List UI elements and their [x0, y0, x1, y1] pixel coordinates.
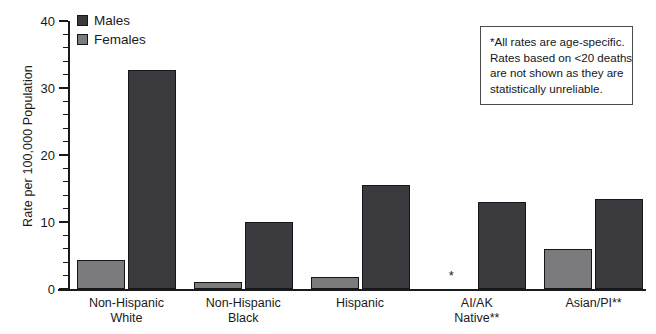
bar-females-2: [311, 277, 359, 289]
x-axis-label-3: AI/AKNative**: [454, 296, 499, 326]
x-axis-label-2: Hispanic: [336, 296, 384, 311]
legend-swatch-females-icon: [77, 34, 88, 45]
y-minor-tick: [63, 47, 68, 48]
y-tick-mark: [59, 87, 68, 89]
x-axis-label-line: Asian/PI**: [565, 296, 621, 311]
y-minor-tick: [63, 181, 68, 182]
y-minor-tick: [63, 34, 68, 35]
y-minor-tick: [63, 74, 68, 75]
y-minor-tick: [63, 275, 68, 276]
x-axis-label-line: Non-Hispanic: [206, 296, 281, 311]
x-axis-line: [58, 289, 646, 291]
y-axis-line: [68, 21, 70, 290]
legend-label-males: Males: [94, 14, 130, 28]
y-minor-tick: [63, 208, 68, 209]
x-axis-label-line: Hispanic: [336, 296, 384, 311]
bar-males-0: [128, 70, 176, 289]
x-axis-label-1: Non-HispanicBlack: [206, 296, 281, 326]
y-tick-mark: [59, 154, 68, 156]
bar-males-4: [595, 199, 643, 289]
y-tick-label: 20: [41, 149, 55, 162]
y-axis-title: Rate per 100,000 Population: [21, 26, 35, 266]
y-tick-label: 10: [41, 216, 55, 229]
y-tick-mark: [59, 288, 68, 290]
y-minor-tick: [63, 168, 68, 169]
grouped-bar-chart: Rate per 100,000 Population 010203040 * …: [0, 0, 656, 334]
y-tick-label: 30: [41, 82, 55, 95]
x-axis-label-0: Non-HispanicWhite: [89, 296, 164, 326]
x-axis-label-line: Native**: [454, 311, 499, 326]
y-tick-mark: [59, 221, 68, 223]
legend: Males Females: [77, 12, 146, 50]
bar-males-3: [478, 202, 526, 289]
bar-females-4: [544, 249, 592, 289]
y-minor-tick: [63, 128, 68, 129]
legend-item-males: Males: [77, 12, 146, 29]
x-axis-label-line: AI/AK: [454, 296, 499, 311]
y-tick-mark: [59, 20, 68, 22]
y-tick-label: 0: [48, 283, 55, 296]
bar-males-2: [362, 185, 410, 289]
footnote-box: *All rates are age-specific. Rates based…: [480, 26, 633, 105]
bar-males-1: [245, 222, 293, 289]
y-tick-label: 40: [41, 15, 55, 28]
y-minor-tick: [63, 61, 68, 62]
x-axis-label-line: White: [89, 311, 164, 326]
y-minor-tick: [63, 235, 68, 236]
x-axis-label-line: Non-Hispanic: [89, 296, 164, 311]
footnote-line: *All rates are age-specific.: [490, 34, 623, 50]
x-axis-label-4: Asian/PI**: [565, 296, 621, 311]
y-minor-tick: [63, 141, 68, 142]
y-minor-tick: [63, 262, 68, 263]
footnote-line: are not shown as they are: [490, 65, 623, 81]
suppressed-value-marker: *: [449, 269, 454, 282]
y-minor-tick: [63, 248, 68, 249]
bar-females-1: [194, 282, 242, 289]
footnote-line: statistically unreliable.: [490, 81, 623, 97]
y-minor-tick: [63, 101, 68, 102]
y-minor-tick: [63, 195, 68, 196]
footnote-line: Rates based on <20 deaths: [490, 50, 623, 66]
y-minor-tick: [63, 114, 68, 115]
legend-swatch-males-icon: [77, 15, 88, 26]
x-axis-label-line: Black: [206, 311, 281, 326]
bar-females-0: [77, 260, 125, 289]
legend-item-females: Females: [77, 31, 146, 48]
legend-label-females: Females: [94, 33, 146, 47]
